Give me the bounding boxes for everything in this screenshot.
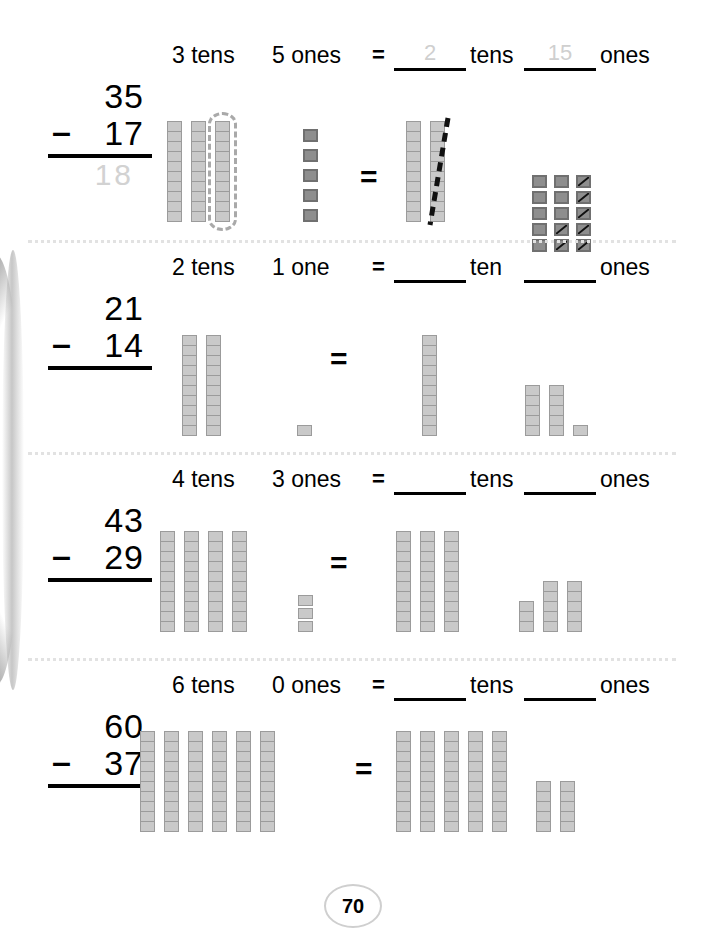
rod-cell (396, 621, 411, 632)
rod-cell (206, 425, 221, 436)
ten-rod (420, 531, 435, 631)
one-cube (532, 223, 547, 236)
row-divider-2 (28, 452, 676, 457)
ten-rod (191, 121, 206, 221)
one-cube (298, 621, 313, 632)
ten-rod (422, 335, 437, 435)
ten-rod (184, 531, 199, 631)
ten-rod (167, 121, 182, 221)
ten-rod (160, 531, 175, 631)
ten-rod (396, 731, 411, 831)
equals-sign-blocks: = (360, 162, 378, 192)
ten-rod (492, 731, 507, 831)
rod-cell (468, 821, 483, 832)
one-cube-crossed-out (576, 223, 591, 236)
one-cube-crossed-out (554, 223, 569, 236)
rod-cell (188, 821, 203, 832)
rod-cell (444, 621, 459, 632)
rod-cell (525, 425, 540, 436)
ten-rod (236, 731, 251, 831)
worksheet-page: 3 tens 5 ones = 2 tens 15 ones 35 – 17 1… (0, 0, 702, 928)
ten-rod (468, 731, 483, 831)
rod-cell (444, 821, 459, 832)
ten-rod (519, 601, 534, 631)
one-cube (532, 191, 547, 204)
rod-cell (167, 211, 182, 222)
rod-cell (543, 621, 558, 632)
ten-rod (208, 531, 223, 631)
one-cube (532, 207, 547, 220)
ten-rod (560, 781, 575, 831)
problem-row-2: 2 tens 1 one = ten ones 21 – 14 = (0, 244, 702, 456)
row-4-blocks: = (0, 662, 702, 862)
ten-rod (536, 781, 551, 831)
row-3-blocks: = (0, 456, 702, 662)
crossed-out-ten-rod-marker (426, 115, 452, 228)
ten-rod (567, 581, 582, 631)
one-cube (554, 175, 569, 188)
one-cube (303, 189, 318, 202)
rod-cell (236, 821, 251, 832)
ten-rod (525, 385, 540, 435)
rod-cell (567, 621, 582, 632)
one-cube (554, 191, 569, 204)
rod-cell (140, 821, 155, 832)
rod-cell (160, 621, 175, 632)
ten-rod (444, 531, 459, 631)
one-cube (303, 149, 318, 162)
circled-ten-group (208, 112, 237, 231)
rod-cell (191, 211, 206, 222)
problem-row-1: 3 tens 5 ones = 2 tens 15 ones 35 – 17 1… (0, 32, 702, 244)
ten-rod (444, 731, 459, 831)
rod-cell (396, 821, 411, 832)
rod-cell (420, 821, 435, 832)
row-2-blocks: = (0, 244, 702, 456)
equals-sign-blocks: = (355, 754, 373, 784)
rod-cell (420, 621, 435, 632)
ten-rod (396, 531, 411, 631)
one-cube-crossed-out (576, 191, 591, 204)
ten-rod (164, 731, 179, 831)
rod-cell (184, 621, 199, 632)
rod-cell (232, 621, 247, 632)
rod-cell (212, 821, 227, 832)
ten-rod (406, 121, 421, 221)
rod-cell (519, 621, 534, 632)
one-cube-crossed-out (576, 175, 591, 188)
ten-rod (182, 335, 197, 435)
rod-cell (573, 425, 588, 436)
row-1-blocks: = (0, 32, 702, 244)
ten-rod (232, 531, 247, 631)
ten-rod (573, 425, 588, 435)
one-cube (303, 169, 318, 182)
one-cube (303, 209, 318, 222)
rod-cell (406, 211, 421, 222)
ten-rod (420, 731, 435, 831)
ten-rod (140, 731, 155, 831)
one-cube (303, 129, 318, 142)
ten-rod (549, 385, 564, 435)
row-divider-3 (28, 658, 676, 663)
ten-rod (188, 731, 203, 831)
rod-cell (492, 821, 507, 832)
ten-rod (260, 731, 275, 831)
problem-row-4: 6 tens 0 ones = tens ones 60 – 37 = (0, 662, 702, 862)
rod-cell (260, 821, 275, 832)
equals-sign-blocks: = (330, 548, 348, 578)
rod-cell (182, 425, 197, 436)
one-cube (554, 207, 569, 220)
ten-rod (543, 581, 558, 631)
equals-sign-blocks: = (330, 344, 348, 374)
ten-rod (206, 335, 221, 435)
rod-cell (536, 821, 551, 832)
problem-row-3: 4 tens 3 ones = tens ones 43 – 29 = (0, 456, 702, 662)
one-cube-crossed-out (576, 207, 591, 220)
row-divider-1 (28, 240, 676, 245)
one-cube (298, 595, 313, 606)
one-cube (298, 608, 313, 619)
rod-cell (549, 425, 564, 436)
rod-cell (164, 821, 179, 832)
rod-cell (208, 621, 223, 632)
one-cube (532, 175, 547, 188)
page-number: 70 (324, 884, 382, 928)
